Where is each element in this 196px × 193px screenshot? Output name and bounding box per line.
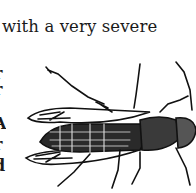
clipped-letter: d xyxy=(0,156,6,175)
clipped-letter: A xyxy=(0,114,6,133)
clipped-letter: r xyxy=(0,80,6,99)
clipped-letter: r xyxy=(0,135,6,154)
body-text-line: with a very severe xyxy=(2,17,157,36)
wasp-illustration-icon xyxy=(20,58,196,193)
